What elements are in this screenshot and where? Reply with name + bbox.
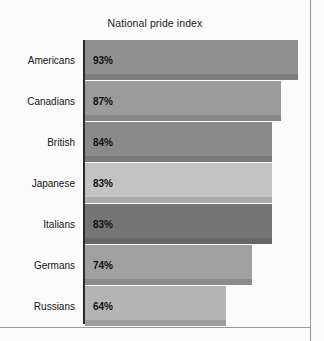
- category-label-british: British: [47, 137, 75, 148]
- bar-americans: 93%: [85, 40, 298, 80]
- bar-value-germans: 74%: [93, 260, 113, 271]
- bar-value-italians: 83%: [93, 219, 113, 230]
- category-label-italians: Italians: [43, 219, 75, 230]
- category-label-germans: Germans: [34, 260, 75, 271]
- category-label-russians: Russians: [34, 301, 75, 312]
- bar-row: Americans 93%: [0, 40, 310, 80]
- category-label-japanese: Japanese: [32, 178, 75, 189]
- bar-row: British 84%: [0, 122, 310, 162]
- bar-italians: 83%: [85, 204, 272, 244]
- bar-japanese: 83%: [85, 163, 272, 203]
- bar-russians: 64%: [85, 286, 226, 326]
- bar-row: Russians 64%: [0, 286, 310, 326]
- bar-row: Germans 74%: [0, 245, 310, 285]
- bar-row: Japanese 83%: [0, 163, 310, 203]
- chart-title: National pride index: [0, 17, 310, 29]
- category-label-americans: Americans: [28, 55, 75, 66]
- bar-value-americans: 93%: [93, 55, 113, 66]
- page-border-bottom: [0, 327, 311, 328]
- chart-page: National pride index Americans 93% Canad…: [0, 0, 324, 341]
- bar-canadians: 87%: [85, 81, 281, 121]
- bar-value-japanese: 83%: [93, 178, 113, 189]
- page-border-right: [310, 0, 311, 341]
- bar-row: Canadians 87%: [0, 81, 310, 121]
- bar-chart-plot-area: Americans 93% Canadians 87% British 84% …: [0, 40, 310, 326]
- bar-germans: 74%: [85, 245, 252, 285]
- bar-value-canadians: 87%: [93, 96, 113, 107]
- bar-value-british: 84%: [93, 137, 113, 148]
- bar-british: 84%: [85, 122, 272, 162]
- bar-value-russians: 64%: [93, 301, 113, 312]
- bar-row: Italians 83%: [0, 204, 310, 244]
- category-label-canadians: Canadians: [27, 96, 75, 107]
